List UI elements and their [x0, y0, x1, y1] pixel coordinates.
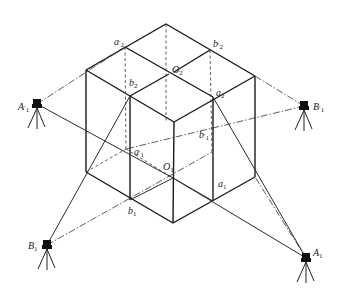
- cube-survey-diagram: a′2 b′2 O2 b2 a2 b′1 a′1 O1 a1 b1 A′1 B′…: [0, 0, 342, 305]
- label-b1-prime: b′1: [199, 129, 210, 142]
- label-B1-prime: B′1: [313, 101, 325, 114]
- label-b1: b1: [128, 205, 137, 218]
- hidden-edges: [86, 24, 212, 178]
- cube-vertical-edges: [86, 70, 255, 223]
- label-b2: b2: [129, 77, 138, 90]
- label-a2-prime: a′2: [114, 36, 125, 49]
- sight-lines: [37, 47, 306, 258]
- instrument-B1: [38, 240, 55, 270]
- label-a1-prime: a′1: [134, 146, 145, 159]
- cube-bottom-edges: [86, 172, 255, 223]
- instrument-B1-prime: [295, 101, 312, 131]
- label-A1-prime: A′1: [17, 101, 30, 114]
- instrument-A1: [297, 253, 314, 283]
- label-b2-prime: b′2: [213, 38, 224, 51]
- label-a1: a1: [218, 178, 227, 191]
- label-A1: A1: [312, 247, 323, 260]
- point-labels: a′2 b′2 O2 b2 a2 b′1 a′1 O1 a1 b1 A′1 B′…: [17, 36, 325, 260]
- cube-front-top-edges: [86, 70, 255, 122]
- instrument-A1-prime: [28, 99, 45, 129]
- label-B1: B1: [28, 240, 38, 253]
- label-O1: O1: [163, 161, 174, 174]
- cube-top-face: [86, 24, 255, 97]
